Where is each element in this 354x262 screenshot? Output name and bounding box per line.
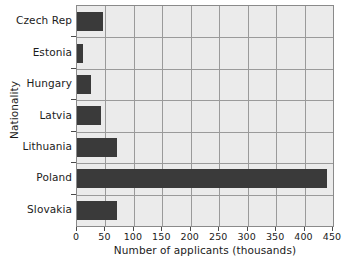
bar-chart: Nationality Czech RepEstoniaHungaryLatvi… (0, 0, 354, 262)
x-tick-label: 450 (323, 231, 341, 242)
y-axis-tick-labels: Czech RepEstoniaHungaryLatviaLithuaniaPo… (6, 5, 72, 227)
bar (77, 44, 83, 63)
x-tick-label: 200 (181, 231, 199, 242)
x-axis-tick-labels: 050100150200250300350400450 (76, 231, 334, 244)
bar (77, 12, 103, 31)
bar (77, 75, 91, 94)
bar (77, 201, 117, 220)
bar (77, 138, 117, 157)
x-tick-label: 0 (73, 231, 79, 242)
x-gridline (134, 6, 135, 226)
x-gridline (162, 6, 163, 226)
y-gridline (77, 100, 333, 101)
x-gridline (105, 6, 106, 226)
bar (77, 106, 101, 125)
y-gridline (77, 195, 333, 196)
y-tick-label: Estonia (6, 47, 72, 58)
x-axis-title: Number of applicants (thousands) (76, 244, 334, 256)
x-tick-label: 350 (266, 231, 284, 242)
y-gridline (77, 163, 333, 164)
y-tick-label: Czech Rep (6, 15, 72, 26)
plot-area (76, 5, 334, 227)
x-gridline (219, 6, 220, 226)
y-tick-label: Lithuania (6, 141, 72, 152)
x-gridline (305, 6, 306, 226)
y-gridline (77, 69, 333, 70)
y-gridline (77, 37, 333, 38)
x-tick-label: 300 (237, 231, 255, 242)
bar (77, 169, 327, 188)
y-tick-label: Poland (6, 172, 72, 183)
x-gridline (248, 6, 249, 226)
y-tick-label: Hungary (6, 78, 72, 89)
x-gridline (191, 6, 192, 226)
x-tick-label: 50 (98, 231, 110, 242)
y-tick-label: Slovakia (6, 204, 72, 215)
x-tick-label: 250 (209, 231, 227, 242)
x-gridline (276, 6, 277, 226)
y-gridline (77, 132, 333, 133)
x-tick-label: 150 (152, 231, 170, 242)
x-tick-label: 400 (294, 231, 312, 242)
y-tick-label: Latvia (6, 110, 72, 121)
x-tick-label: 100 (124, 231, 142, 242)
